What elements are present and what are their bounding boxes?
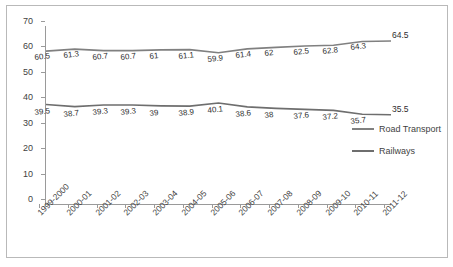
data-label: 62.5 [293, 47, 309, 57]
data-label: 38.6 [235, 109, 251, 119]
x-axis-tick-label: 2006-07 [237, 189, 265, 217]
data-label: 61.3 [63, 51, 79, 61]
data-label: 60.7 [120, 52, 136, 62]
chart-legend: Road Transport Railways [352, 118, 453, 162]
y-axis-tick-label: 70 [7, 17, 33, 26]
x-axis-tick-label: 2001-02 [94, 189, 122, 217]
legend-item-railways: Railways [352, 140, 453, 162]
y-axis-tick-label: 0 [7, 195, 33, 204]
x-axis-tick-label: 2000-01 [65, 189, 93, 217]
data-label: 40.1 [207, 105, 223, 115]
y-tick [41, 72, 45, 73]
x-axis-tick-label: 2005-06 [209, 189, 237, 217]
data-label: 39.3 [120, 107, 136, 117]
x-axis-tick-label: 2009-10 [324, 189, 352, 217]
y-axis-tick-label: 40 [7, 93, 33, 102]
y-axis-tick-label: 50 [7, 67, 33, 76]
y-tick [41, 21, 45, 22]
y-tick [41, 97, 45, 98]
y-tick [41, 148, 45, 149]
data-label: 38.7 [63, 109, 79, 119]
legend-label-railways: Railways [379, 146, 415, 156]
data-label: 39.5 [34, 107, 50, 117]
data-label: 39.3 [92, 107, 108, 117]
data-label: 62.8 [322, 47, 338, 57]
data-label: 38.9 [178, 108, 194, 118]
data-label: 38 [264, 111, 274, 120]
y-tick [41, 46, 45, 47]
y-axis-tick-label: 30 [7, 118, 33, 127]
data-label: 35.5 [392, 104, 409, 113]
legend-item-road-transport: Road Transport [352, 118, 453, 140]
data-label: 60.7 [92, 52, 108, 62]
y-axis-tick-label: 20 [7, 144, 33, 153]
data-label: 59.9 [207, 54, 223, 64]
data-label: 62 [264, 49, 274, 58]
data-label: 61.1 [178, 51, 194, 61]
x-axis-tick-label: 2003-04 [151, 189, 179, 217]
data-label: 60.5 [34, 53, 50, 63]
y-tick [41, 174, 45, 175]
x-axis-tick-label: 2002-03 [122, 189, 150, 217]
y-tick [41, 123, 45, 124]
data-label: 61.4 [235, 50, 251, 60]
legend-swatch-road-transport [352, 128, 374, 130]
data-label: 39 [149, 109, 159, 118]
legend-label-road-transport: Road Transport [379, 124, 441, 134]
legend-swatch-railways [352, 150, 374, 152]
x-axis-tick-label: 2007-08 [266, 189, 294, 217]
x-axis-tick-label: 2004-05 [180, 189, 208, 217]
y-axis-tick-label: 10 [7, 169, 33, 178]
chart-frame: 010203040506070 1999-20002000-012001-022… [6, 5, 448, 258]
line-road-transport [46, 41, 391, 53]
data-label: 64.3 [350, 43, 366, 53]
data-label: 37.6 [293, 112, 309, 122]
data-label: 61 [149, 52, 159, 61]
y-axis-tick-label: 60 [7, 42, 33, 51]
x-axis-tick-label: 2008-09 [295, 189, 323, 217]
data-label: 37.2 [322, 113, 338, 123]
data-label: 64.5 [392, 31, 409, 40]
